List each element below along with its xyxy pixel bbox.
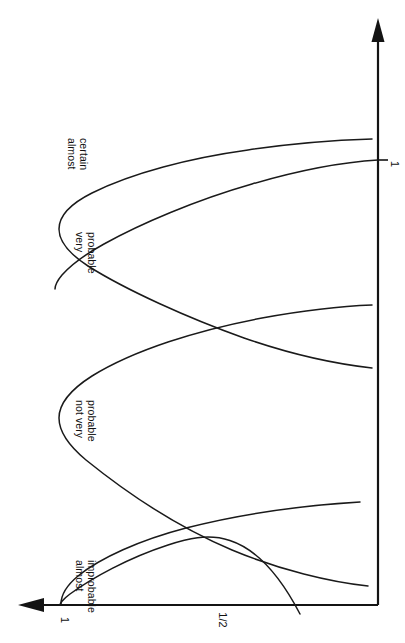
tick-label-probability-half: 1/2 [217,612,229,627]
annotation-almost-certain: almost certain [66,138,90,170]
tick-labels: 1 1 1/2 [59,161,401,628]
annotation-almost-certain-line2: certain [78,138,90,170]
probability-axis [18,598,378,612]
membership-axis [372,18,389,605]
annotation-very-probable-line1: very [74,232,86,253]
tick-label-probability-1: 1 [59,617,71,623]
curve-almost-improbable [0,0,300,614]
probability-axis-arrowhead [18,598,44,612]
annotation-almost-certain-line1: almost [66,138,78,170]
annotation-not-very-probable-line1: not very [74,400,86,439]
annotation-almost-improbable-line1: almost [74,560,86,592]
membership-axis-arrowhead [372,18,385,42]
annotation-not-very-probable-line2: probable [86,400,98,442]
figure-canvas: 1 1 1/2 almost improbable not very proba… [0,0,405,643]
curve-almost-certain [55,160,378,289]
annotation-almost-improbable-line2: improbable [86,560,98,613]
annotation-not-very-probable: not very probable [74,400,98,442]
curve-almost-improbable-stroke [61,502,360,604]
curve-not-very-probable [59,305,372,586]
curve-very-probable [59,139,372,368]
annotation-very-probable-line2: probable [86,232,98,274]
annotation-very-probable: very probable [74,232,98,274]
membership-chart: 1 1 1/2 almost improbable not very proba… [0,0,405,643]
tick-label-membership-1: 1 [389,161,401,167]
